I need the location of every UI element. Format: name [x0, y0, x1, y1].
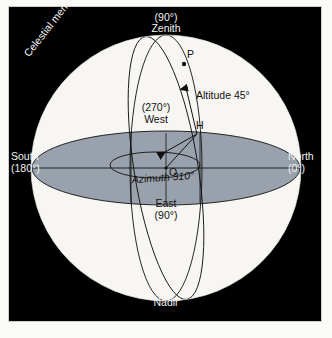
point-h-label: H: [196, 120, 204, 132]
south-label: South: [11, 151, 38, 163]
zenith-label: Zenith: [151, 23, 180, 35]
figure-container: (90°) Zenith Nadir Celestial meridian So…: [0, 0, 332, 338]
north-azimuth-label: (0°): [288, 163, 305, 175]
point-o-label: O: [169, 167, 177, 179]
altitude-label: Altitude 45°: [196, 90, 250, 102]
south-azimuth-label: (180°): [11, 163, 40, 175]
celestial-sphere-diagram: [0, 0, 332, 338]
star-point-marker: [182, 62, 186, 66]
west-label: West: [144, 114, 168, 126]
observer-point-marker: [164, 166, 167, 169]
point-p-label: P: [187, 49, 194, 61]
east-label: East: [155, 198, 176, 210]
west-azimuth-label: (270°): [142, 102, 171, 114]
east-azimuth-label: (90°): [155, 210, 178, 222]
north-label: North: [288, 151, 314, 163]
nadir-label: Nadir: [153, 297, 178, 309]
